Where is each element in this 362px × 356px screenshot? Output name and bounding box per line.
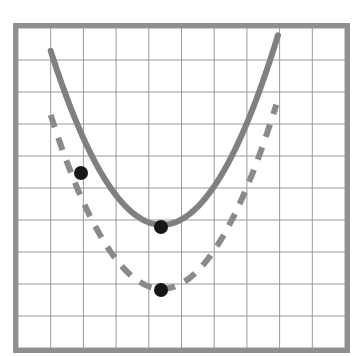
graph-figure [0, 0, 362, 356]
dashed-vertex-point [154, 283, 168, 297]
solid-left-point [74, 166, 88, 180]
graph-canvas [0, 0, 362, 356]
solid-vertex-point [154, 220, 168, 234]
